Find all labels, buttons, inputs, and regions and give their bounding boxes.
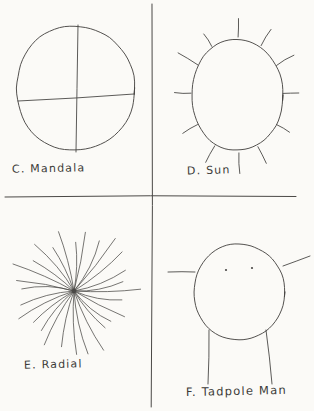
- sun-ray: [204, 34, 212, 46]
- quadrant-label-radial: E. Radial: [24, 357, 83, 371]
- radial-ray: [17, 281, 74, 292]
- sun-ray: [277, 125, 290, 133]
- radial-ray: [34, 291, 75, 322]
- sun-ray: [239, 153, 240, 174]
- sheet-artwork: [0, 0, 314, 411]
- radial-ray: [53, 248, 74, 291]
- mandala-outline: [16, 26, 134, 150]
- quadrant-label-mandala: C. Mandala: [12, 161, 86, 175]
- radial-ray: [74, 291, 125, 317]
- sun-ray: [178, 53, 198, 65]
- sun-ray: [206, 146, 215, 163]
- mandala-vertical-divider: [76, 25, 78, 152]
- radial-center-point: [72, 289, 76, 293]
- tadpole-eye-right: [251, 267, 253, 269]
- radial-ray: [74, 291, 88, 354]
- mandala-horizontal-divider: [18, 94, 134, 101]
- divider-vertical: [151, 4, 152, 407]
- tadpole-head-outline: [194, 244, 285, 340]
- sun-ray: [261, 29, 271, 45]
- drawing-sheet: C. Mandala D. Sun E. Radial F. Tadpole M…: [0, 0, 314, 411]
- radial-ray: [35, 244, 74, 291]
- sun-ray: [258, 147, 266, 164]
- sun-outline: [192, 39, 283, 150]
- sun-ray: [175, 93, 192, 94]
- tadpole-eye-left: [225, 269, 227, 271]
- sun-ray: [277, 55, 294, 65]
- quadrant-label-tadpole: F. Tadpole Man: [186, 383, 287, 399]
- tadpole-leg-left: [208, 330, 209, 384]
- tadpole-arm-right: [283, 256, 310, 266]
- sun-ray: [183, 125, 198, 134]
- quadrant-label-sun: D. Sun: [187, 163, 231, 177]
- tadpole-leg-right: [266, 330, 272, 384]
- divider-horizontal: [5, 196, 296, 197]
- radial-ray: [74, 242, 77, 291]
